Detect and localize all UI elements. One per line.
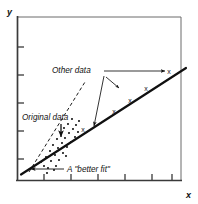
data-dot — [55, 165, 57, 167]
original-fit-line — [29, 82, 85, 172]
y-axis-ticks — [18, 47, 25, 159]
data-dot — [75, 124, 77, 126]
data-dot — [61, 142, 63, 144]
other-data-label: Other data — [52, 66, 91, 75]
data-dot — [40, 161, 42, 163]
data-dot — [67, 123, 69, 125]
data-dot — [72, 128, 74, 130]
data-dot — [66, 146, 68, 148]
data-dot — [57, 147, 59, 149]
x-marker: x — [112, 108, 116, 115]
data-dot — [50, 160, 52, 162]
data-dot — [46, 172, 48, 174]
data-dot — [64, 137, 66, 139]
data-dot — [58, 159, 60, 161]
data-dot — [56, 138, 58, 140]
x-marker: x — [81, 126, 85, 133]
better-fit-label: A "better fit" — [66, 165, 111, 174]
data-dot — [77, 131, 79, 133]
data-dot — [71, 118, 73, 120]
figure-canvas: x x x x x Other data Original data A "be… — [0, 0, 198, 204]
x-marker: x — [167, 68, 171, 75]
data-dot — [63, 127, 65, 129]
data-dot — [52, 144, 54, 146]
data-dot — [54, 154, 56, 156]
other-data-arrow-mid — [106, 77, 119, 88]
data-dot — [45, 156, 47, 158]
data-dot — [65, 155, 67, 157]
other-data-arrow-near — [94, 76, 104, 126]
data-dot — [62, 152, 64, 154]
y-axis-label: y — [6, 7, 13, 17]
x-marker: x — [128, 97, 132, 104]
data-dot — [43, 165, 45, 167]
data-dot — [49, 150, 51, 152]
better-fit-annotation: A "better fit" — [31, 165, 111, 174]
data-dot — [74, 136, 76, 138]
x-axis-ticks — [44, 174, 172, 181]
x-marker: x — [144, 85, 148, 92]
data-dot — [70, 141, 72, 143]
x-axis-label: x — [185, 190, 192, 200]
data-dot — [68, 132, 70, 134]
data-dot — [78, 120, 80, 122]
original-data-label: Original data — [22, 113, 69, 122]
regression-figure: x x x x x Other data Original data A "be… — [0, 0, 198, 204]
plot-frame — [16, 16, 182, 181]
